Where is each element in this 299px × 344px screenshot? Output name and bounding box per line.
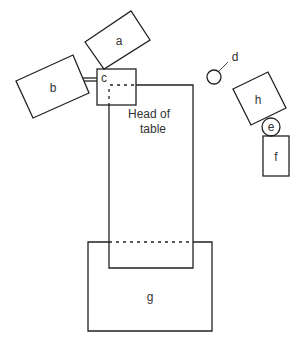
- label-a: a: [116, 34, 123, 48]
- label-d: d: [232, 50, 239, 64]
- label-b: b: [50, 81, 57, 95]
- label-e: e: [268, 120, 275, 134]
- label-f: f: [274, 150, 278, 164]
- head-of-table-line2: table: [140, 122, 166, 136]
- d-leader-line: [218, 62, 228, 72]
- label-c: c: [101, 71, 107, 85]
- shape-d: [207, 70, 221, 84]
- seating-diagram: a b c d h e f g Head of table: [0, 0, 299, 344]
- head-of-table-line1: Head of: [128, 107, 171, 121]
- label-g: g: [147, 290, 154, 304]
- label-h: h: [255, 93, 262, 107]
